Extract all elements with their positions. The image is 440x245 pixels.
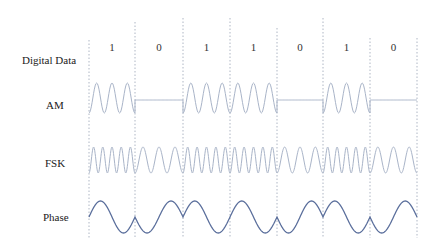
bit-label: 1 bbox=[344, 41, 350, 53]
bit-label: 0 bbox=[391, 41, 397, 53]
row-label-digital-data: Digital Data bbox=[22, 54, 76, 66]
modulation-diagram bbox=[0, 0, 440, 245]
am-waveform bbox=[89, 83, 417, 113]
fsk-waveform bbox=[89, 147, 417, 173]
row-label-phase: Phase bbox=[43, 211, 69, 223]
bit-label: 1 bbox=[204, 41, 210, 53]
bit-label: 1 bbox=[109, 41, 115, 53]
row-label-am: AM bbox=[46, 99, 64, 111]
bit-label: 0 bbox=[156, 41, 162, 53]
bit-label: 1 bbox=[251, 41, 257, 53]
bit-label: 0 bbox=[297, 41, 303, 53]
row-label-fsk: FSK bbox=[45, 157, 65, 169]
phase-waveform bbox=[89, 201, 417, 233]
